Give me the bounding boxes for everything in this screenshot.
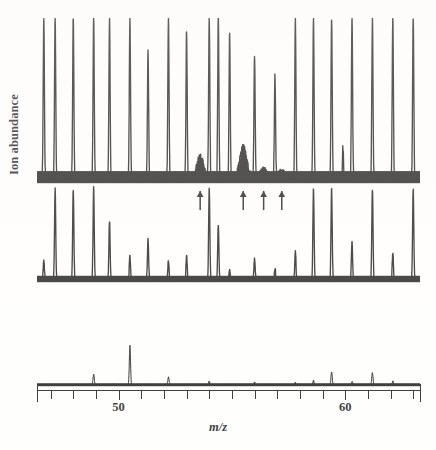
spectra-traces	[37, 18, 420, 388]
x-axis-tick	[368, 391, 369, 399]
y-axis-label: Ion abundance	[7, 35, 22, 175]
x-axis	[37, 386, 420, 400]
x-axis-tick	[164, 391, 165, 399]
x-axis-tick	[255, 391, 256, 399]
x-axis-tick	[51, 391, 52, 399]
x-axis-tick	[345, 391, 346, 400]
bottom-trace-line	[37, 345, 420, 385]
x-axis-line	[37, 390, 420, 391]
annotation-arrow-up-icon	[260, 191, 267, 210]
x-axis-tick	[73, 391, 74, 399]
x-axis-tick	[209, 391, 210, 399]
x-axis-tick	[187, 391, 188, 399]
bottom-trace	[37, 345, 420, 386]
x-axis-endcap	[420, 384, 421, 402]
x-axis-endcap	[37, 384, 38, 402]
x-axis-tick	[391, 391, 392, 399]
top-trace-line	[37, 18, 420, 182]
middle-trace-line	[37, 187, 420, 281]
middle-trace	[37, 187, 420, 282]
x-axis-tick	[413, 391, 414, 399]
annotation-arrow-up-icon	[240, 191, 247, 210]
x-axis-tick-label: 50	[112, 400, 125, 415]
x-axis-tick	[277, 391, 278, 399]
x-axis-tick	[119, 391, 120, 400]
x-axis-title: m/z	[0, 420, 436, 435]
figure-root: Ion abundance 5060 m/z	[0, 0, 436, 450]
annotation-arrow-up-icon	[197, 191, 204, 210]
x-axis-tick	[300, 391, 301, 399]
annotation-arrow-up-icon	[278, 191, 285, 210]
x-axis-tick	[323, 391, 324, 399]
top-trace	[37, 18, 420, 183]
x-axis-tick	[141, 391, 142, 399]
x-axis-tick-label: 60	[339, 400, 352, 415]
spectra-plot-area	[37, 18, 420, 388]
x-axis-tick	[96, 391, 97, 399]
x-axis-tick	[232, 391, 233, 399]
